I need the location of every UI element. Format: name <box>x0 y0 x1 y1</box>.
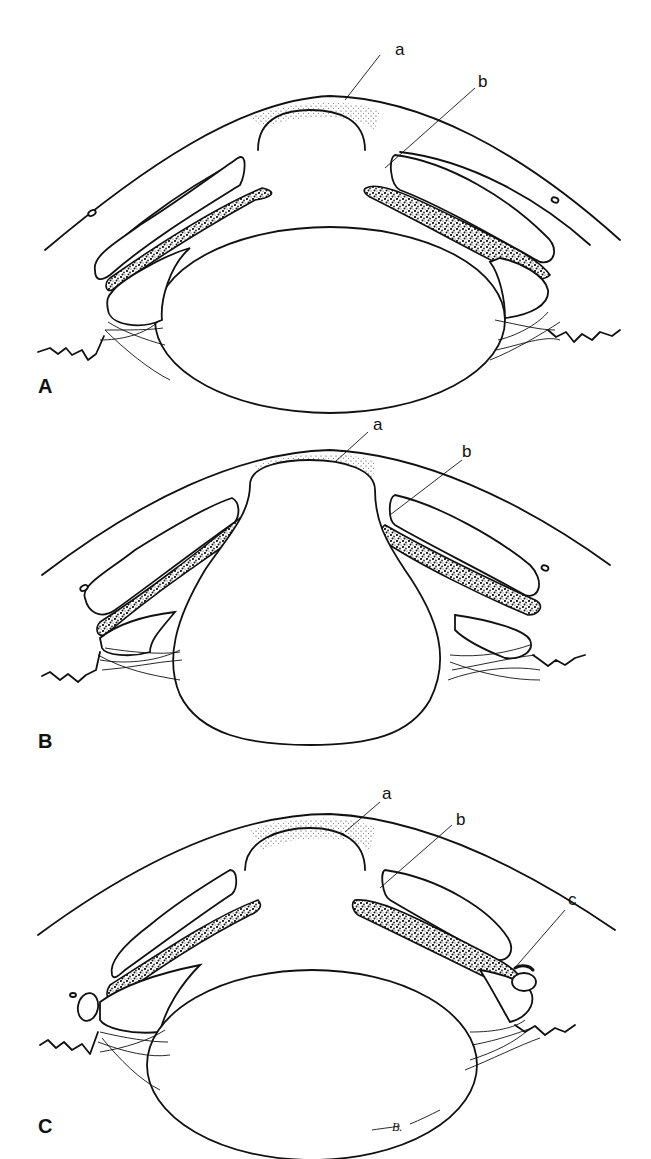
leader-b <box>385 88 475 168</box>
callout-label-b: b <box>456 810 465 830</box>
callout-label-c: c <box>568 890 577 910</box>
eye-diagram-a <box>0 0 651 400</box>
iris-cyst-left <box>76 991 101 1022</box>
panel-label: B <box>38 730 52 753</box>
callout-label-a: a <box>395 40 404 60</box>
ciliary-right <box>455 615 531 658</box>
eye-diagram-c <box>0 770 651 1159</box>
panel-c: a b c C B. <box>0 770 651 1159</box>
callout-label-a: a <box>382 784 391 804</box>
lens <box>147 970 477 1159</box>
panel-b: a b B <box>0 390 651 770</box>
leader-a <box>345 55 380 100</box>
lens <box>155 227 505 413</box>
iris-cyst-right <box>512 973 536 991</box>
leader-c <box>513 910 565 970</box>
callout-label-a: a <box>373 415 382 435</box>
eye-diagram-b <box>0 390 651 770</box>
panel-label: C <box>38 1115 52 1138</box>
callout-label-b: b <box>462 442 471 462</box>
artist-signature: B. <box>392 1120 402 1135</box>
callout-label-b: b <box>478 72 487 92</box>
panel-a: a b A <box>0 0 651 400</box>
